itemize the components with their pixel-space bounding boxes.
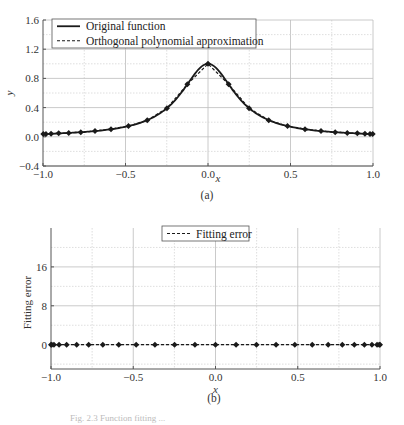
data-point-marker	[292, 342, 298, 348]
legend-label: Fitting error	[196, 228, 252, 241]
data-point-marker	[125, 123, 131, 129]
plot-b-fitting-error: −1.0−0.50.00.51.00816xFitting errorFitti…	[21, 226, 387, 395]
data-point-marker	[325, 342, 331, 348]
x-tick-label: −0.5	[116, 168, 136, 180]
y-axis-title: Fitting error	[21, 275, 33, 329]
data-point-marker	[273, 342, 279, 348]
legend-label: Orthogonal polynomial approximation	[86, 35, 264, 48]
data-point-marker	[361, 342, 367, 348]
data-point-marker	[86, 342, 92, 348]
data-point-marker	[192, 342, 198, 348]
legend-label: Original function	[86, 20, 166, 33]
x-tick-label: 0.5	[291, 371, 305, 383]
y-tick-label: 16	[36, 261, 48, 273]
x-tick-label: 1.0	[366, 168, 380, 180]
data-point-marker	[66, 130, 72, 136]
data-point-marker	[92, 128, 98, 134]
data-point-marker	[152, 342, 158, 348]
data-point-marker	[64, 342, 70, 348]
x-tick-label: 1.0	[373, 371, 387, 383]
y-tick-label: −0.4	[19, 160, 39, 172]
data-point-marker	[266, 117, 272, 123]
data-point-marker	[133, 342, 139, 348]
y-tick-label: 8	[42, 300, 48, 312]
data-point-marker	[362, 131, 368, 137]
data-point-marker	[309, 342, 315, 348]
y-tick-label: 0.0	[25, 131, 39, 143]
data-point-marker	[100, 342, 106, 348]
x-tick-label: −1.0	[41, 371, 61, 383]
data-point-marker	[285, 123, 291, 129]
data-point-marker	[108, 126, 114, 132]
data-point-marker	[351, 342, 357, 348]
data-point-marker	[56, 130, 62, 136]
plot-a-original-vs-approximation: −1.0−0.50.00.51.0−0.40.00.40.81.21.6xyOr…	[3, 14, 380, 184]
data-point-marker	[78, 129, 84, 135]
caption-a: (a)	[201, 189, 214, 202]
data-point-marker	[344, 130, 350, 136]
data-point-marker	[318, 128, 324, 134]
caption-b: (b)	[207, 392, 221, 405]
y-tick-label: 0	[42, 339, 48, 351]
data-point-marker	[74, 342, 80, 348]
y-tick-label: 1.6	[25, 14, 39, 26]
data-point-marker	[332, 129, 338, 135]
data-point-marker	[116, 342, 122, 348]
y-tick-label: 0.8	[25, 72, 39, 84]
figure-canvas: −1.0−0.50.00.51.0−0.40.00.40.81.21.6xyOr…	[0, 0, 404, 425]
x-tick-label: 0.0	[209, 371, 223, 383]
x-tick-label: 0.5	[284, 168, 298, 180]
y-axis-title: y	[3, 90, 15, 96]
legend: Original functionOrthogonal polynomial a…	[52, 19, 264, 48]
figure-bottom-caption: Fig. 2.3 Function fitting ...	[70, 413, 165, 423]
legend: Fitting error	[162, 226, 252, 241]
data-point-marker	[56, 342, 62, 348]
y-tick-label: 1.2	[25, 43, 39, 55]
x-axis-title: x	[215, 172, 221, 184]
x-tick-label: 0.0	[201, 168, 215, 180]
data-point-marker	[213, 342, 219, 348]
data-point-marker	[339, 342, 345, 348]
data-point-marker	[48, 131, 54, 137]
data-point-marker	[253, 342, 259, 348]
y-tick-label: 0.4	[25, 102, 39, 114]
data-point-marker	[172, 342, 178, 348]
data-point-marker	[233, 342, 239, 348]
data-point-marker	[354, 130, 360, 136]
data-point-marker	[302, 126, 308, 132]
x-tick-label: −0.5	[123, 371, 143, 383]
